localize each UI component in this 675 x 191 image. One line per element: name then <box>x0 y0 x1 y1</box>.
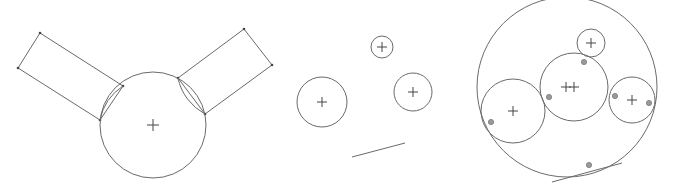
rectangle <box>178 29 272 114</box>
center-cross-icon <box>317 97 327 107</box>
center-cross-icon <box>627 95 637 105</box>
tangency-marker-icon <box>581 59 586 64</box>
center-cross-icon <box>561 82 571 92</box>
panel-separate-circles-and-line <box>297 36 432 157</box>
line-segment <box>352 143 405 157</box>
center-cross-icon <box>586 38 596 48</box>
circle <box>477 0 657 177</box>
rectangle <box>18 33 123 120</box>
panel-enclosing-tangent-circle <box>477 0 657 182</box>
vertex-point <box>39 32 42 35</box>
panel-circle-with-rectangles <box>17 28 274 178</box>
vertex-point <box>243 28 246 31</box>
tangency-marker-icon <box>612 93 617 98</box>
vertex-point <box>271 64 274 67</box>
tangency-marker-icon <box>546 94 551 99</box>
center-cross-icon <box>147 119 159 131</box>
tangency-marker-icon <box>646 100 651 105</box>
tangency-marker-icon <box>586 162 591 167</box>
vertex-point <box>17 67 20 70</box>
center-cross-icon <box>508 106 518 116</box>
center-cross-icon <box>377 42 387 52</box>
tangency-marker-icon <box>488 119 493 124</box>
center-cross-icon <box>408 87 418 97</box>
geometry-diagram <box>0 0 675 191</box>
